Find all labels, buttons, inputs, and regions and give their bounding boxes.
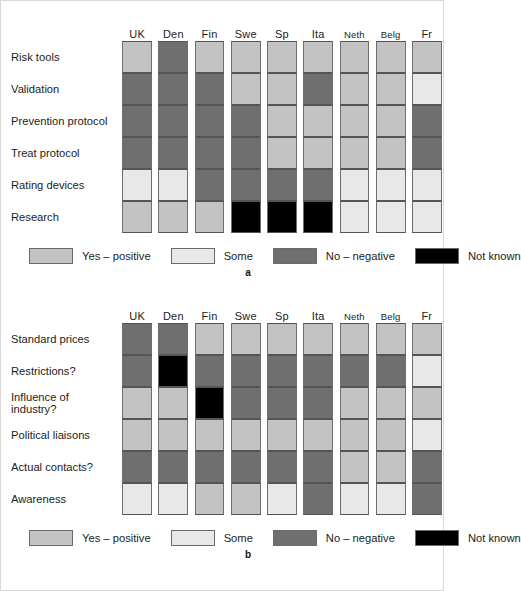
- legend-swatch-unknown: [415, 530, 459, 546]
- heatmap-cell: [267, 73, 297, 105]
- legend-swatch-yes: [29, 248, 73, 264]
- heatmap-cell: [376, 105, 406, 137]
- heatmap-cells: [119, 201, 445, 233]
- heatmap-cell: [412, 355, 442, 387]
- heatmap-cell: [376, 483, 406, 515]
- heatmap-cell: [195, 201, 225, 233]
- heatmap-row: Political liaisons: [1, 419, 445, 451]
- column-header-sp: Sp: [264, 28, 300, 41]
- heatmap-cell: [340, 323, 370, 355]
- heatmap-cell: [122, 451, 152, 483]
- heatmap-cell: [303, 451, 333, 483]
- heatmap-cell: [195, 419, 225, 451]
- heatmap-cell: [340, 41, 370, 73]
- heatmap-cell: [376, 137, 406, 169]
- heatmap-cell: [231, 323, 261, 355]
- legend-item-yes: Yes – positive: [29, 248, 151, 264]
- heatmap-cell: [231, 105, 261, 137]
- heatmap-cell: [231, 201, 261, 233]
- heatmap-cell: [412, 137, 442, 169]
- heatmap-cell: [376, 355, 406, 387]
- heatmap-cell: [122, 201, 152, 233]
- legend-label-yes: Yes – positive: [82, 250, 151, 262]
- legend-label-yes: Yes – positive: [82, 532, 151, 544]
- panel-a-caption: a: [1, 267, 445, 278]
- column-header-den: Den: [155, 310, 191, 323]
- heatmap-cell: [340, 73, 370, 105]
- heatmap-cell: [158, 451, 188, 483]
- heatmap-cell: [303, 73, 333, 105]
- legend-swatch-no: [273, 530, 317, 546]
- heatmap-cell: [340, 169, 370, 201]
- panel-b-rows: Standard pricesRestrictions?Influence of…: [1, 323, 445, 515]
- heatmap-cell: [376, 419, 406, 451]
- heatmap-cell: [158, 419, 188, 451]
- row-label: Political liaisons: [1, 419, 119, 451]
- heatmap-cells: [119, 355, 445, 387]
- legend-swatch-no: [273, 248, 317, 264]
- heatmap-cell: [267, 451, 297, 483]
- heatmap-row: Prevention protocol: [1, 105, 445, 137]
- heatmap-cell: [340, 137, 370, 169]
- heatmap-cell: [376, 387, 406, 419]
- panel-a-rows: Risk toolsValidationPrevention protocolT…: [1, 41, 445, 233]
- row-label: Risk tools: [1, 41, 119, 73]
- legend-label-no: No – negative: [326, 532, 395, 544]
- row-label: Prevention protocol: [1, 105, 119, 137]
- legend-swatch-yes: [29, 530, 73, 546]
- heatmap-cell: [231, 387, 261, 419]
- heatmap-cell: [158, 41, 188, 73]
- heatmap-row: Risk tools: [1, 41, 445, 73]
- heatmap-cell: [267, 355, 297, 387]
- column-header-swe: Swe: [228, 28, 264, 41]
- legend-swatch-some: [171, 530, 215, 546]
- heatmap-cell: [267, 201, 297, 233]
- heatmap-cell: [267, 483, 297, 515]
- panel-b-grid: UKDenFinSweSpItaNethBelgFr Standard pric…: [1, 301, 445, 515]
- legend-label-unknown: Not known: [468, 532, 521, 544]
- panel-b-column-headers: UKDenFinSweSpItaNethBelgFr: [1, 301, 445, 323]
- heatmap-cell: [340, 419, 370, 451]
- column-header-fin: Fin: [191, 28, 227, 41]
- heatmap-cell: [340, 201, 370, 233]
- heatmap-cell: [158, 387, 188, 419]
- heatmap-cell: [158, 355, 188, 387]
- row-label: Rating devices: [1, 169, 119, 201]
- heatmap-cell: [412, 73, 442, 105]
- heatmap-cell: [412, 483, 442, 515]
- row-label: Validation: [1, 73, 119, 105]
- heatmap-cell: [267, 169, 297, 201]
- legend-swatch-some: [171, 248, 215, 264]
- column-header-neth: Neth: [336, 28, 372, 41]
- panel-b-caption: b: [1, 549, 445, 560]
- heatmap-cell: [303, 41, 333, 73]
- heatmap-cell: [303, 419, 333, 451]
- heatmap-cell: [122, 105, 152, 137]
- panel-a-grid: UKDenFinSweSpItaNethBelgFr Risk toolsVal…: [1, 19, 445, 233]
- legend-item-no: No – negative: [273, 248, 395, 264]
- heatmap-cell: [303, 105, 333, 137]
- column-header-belg: Belg: [373, 310, 409, 323]
- heatmap-cells: [119, 73, 445, 105]
- heatmap-cell: [195, 41, 225, 73]
- legend-label-no: No – negative: [326, 250, 395, 262]
- heatmap-cell: [122, 169, 152, 201]
- heatmap-cell: [231, 483, 261, 515]
- heatmap-cell: [267, 419, 297, 451]
- heatmap-cell: [231, 41, 261, 73]
- heatmap-cell: [267, 105, 297, 137]
- heatmap-cell: [158, 105, 188, 137]
- legend-label-unknown: Not known: [468, 250, 521, 262]
- legend-label-some: Some: [224, 532, 253, 544]
- column-header-fin: Fin: [191, 310, 227, 323]
- heatmap-row: Actual contacts?: [1, 451, 445, 483]
- column-header-neth: Neth: [336, 310, 372, 323]
- column-header-fr: Fr: [409, 310, 445, 323]
- heatmap-cell: [376, 169, 406, 201]
- heatmap-cell: [122, 323, 152, 355]
- heatmap-row: Standard prices: [1, 323, 445, 355]
- heatmap-cell: [303, 355, 333, 387]
- heatmap-cell: [158, 323, 188, 355]
- heatmap-cell: [303, 387, 333, 419]
- heatmap-cell: [412, 169, 442, 201]
